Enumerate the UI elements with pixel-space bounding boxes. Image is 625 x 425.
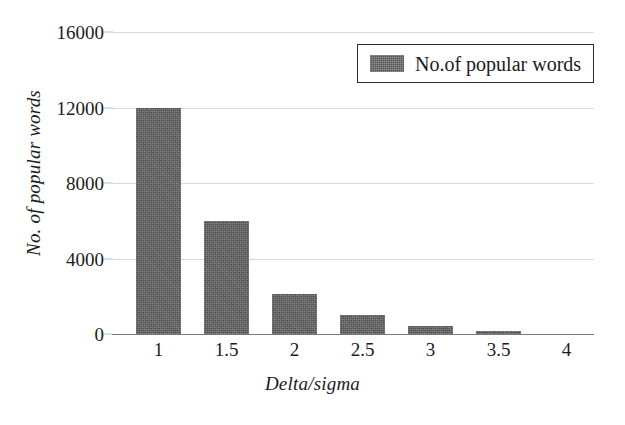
x-tick-label-1: 1 [154,340,164,359]
x-tick-label-3: 3 [426,340,436,359]
x-axis-tick-labels: 1 1.5 2 2.5 3 3.5 4 [112,340,594,370]
axis-baseline-0 [112,334,594,335]
legend-swatch-icon [370,55,404,72]
y-axis-title-wrapper: No. of popular words [21,53,47,293]
bar-1 [136,108,181,335]
x-tick-label-2: 2 [290,340,300,359]
x-tick-label-4: 4 [562,340,572,359]
y-tick-label-16000: 16000 [34,23,104,42]
bar-2_5 [340,315,385,334]
bar-3_5 [476,331,521,334]
bar-chart-figure: 16000 12000 8000 4000 0 1 1.5 2 [0,0,625,425]
x-tick-label-1_5: 1.5 [215,340,239,359]
x-tick-label-2_5: 2.5 [351,340,375,359]
y-tick-label-0: 0 [34,325,104,344]
x-tick-label-3_5: 3.5 [487,340,511,359]
legend-label: No.of popular words [415,54,581,74]
legend: No.of popular words [357,44,594,83]
bar-1_5 [204,221,249,334]
bar-3 [408,326,453,334]
bar-2 [272,294,317,334]
x-axis-title: Delta/sigma [0,373,625,395]
y-axis-title: No. of popular words [23,90,45,256]
